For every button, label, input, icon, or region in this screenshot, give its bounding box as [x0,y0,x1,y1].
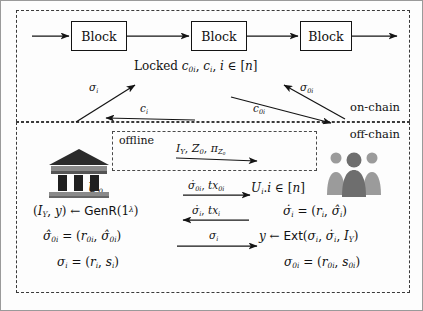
equation-sigma-0i: σ0i = (r0i, s0i) [284,255,360,270]
people-group-icon [325,147,383,199]
on-chain-label: on-chain [350,100,400,114]
equation-genr: (IY, y) ← GenR(1λ) [33,204,139,219]
arrow-label-c-i: ci [140,102,148,116]
equation-sigma-i: σi = (ri, si) [57,255,119,270]
offline-label: offline [119,134,154,147]
arrow-label-sigma-i: σi [89,81,98,95]
diagram-canvas: Block Block Block [0,0,423,311]
off-chain-label: off-chain [350,127,400,141]
arrow-label-c-0i: c0i [253,102,265,116]
equation-sigma-dot-i: σ̇i = (ri, σ̂i) [283,204,347,219]
actor-label-ui: Ui.i ∈ [n] [251,181,305,196]
equation-ext: y ← Ext(σi, σ̇i, IY) [259,229,358,244]
equation-sigma-hat-0i: σ̂0i = (r0i, σ̂0i) [43,229,121,244]
arrow-label-sigma-0i: σ0i [300,81,313,95]
arrow-label-iy-z0-pi: IY, Z0, πZ0 [176,142,226,156]
locked-text: Locked c0i, ci, i ∈ [n] [134,59,258,74]
bank-icon [47,147,111,199]
arrow-label-sigma-tx: σ̇i, txi [192,204,220,218]
arrow-label-sigma-bottom: σi [209,229,218,243]
arrow-label-sigma0-tx0: σ̇0i, tx0i [188,179,224,193]
